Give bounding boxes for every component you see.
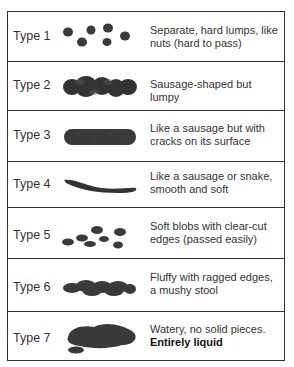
type-5-illustration-icon: [62, 224, 144, 250]
type-description: Soft blobs with clear-cut edges (passed …: [150, 220, 280, 246]
type-description: Like a sausage or snake, smooth and soft: [150, 170, 280, 196]
type-label: Type 4: [13, 177, 51, 191]
type-label: Type 2: [13, 78, 51, 92]
type-3-illustration-icon: [62, 127, 144, 147]
type-description-text: Watery, no solid pieces.: [150, 323, 266, 335]
type-4-illustration-icon: [62, 176, 144, 196]
type-label: Type 3: [13, 128, 51, 142]
table-row-type-5: Type 5 Soft blobs with clear-cut edges (…: [8, 208, 284, 259]
type-7-illustration-icon: [62, 319, 144, 355]
type-label: Type 5: [13, 228, 51, 242]
type-description: Fluffy with ragged edges, a mushy stool: [150, 271, 280, 297]
type-label: Type 1: [13, 29, 51, 43]
table-row-type-1: Type 1 Separate, hard lumps, like nuts (…: [8, 12, 284, 62]
table-row-type-4: Type 4 Like a sausage or snake, smooth a…: [8, 162, 284, 208]
table-row-type-2: Type 2 Sausage-shaped but lumpy: [8, 62, 284, 111]
type-description: Sausage-shaped but lumpy: [150, 78, 280, 104]
stool-type-table: Type 1 Separate, hard lumps, like nuts (…: [7, 11, 285, 361]
table-row-type-7: Type 7 Watery, no solid pieces. Entirely…: [8, 312, 284, 362]
type-2-illustration-icon: [62, 74, 144, 100]
type-description: Separate, hard lumps, like nuts (hard to…: [150, 24, 280, 50]
type-description: Like a sausage but with cracks on its su…: [150, 122, 280, 148]
type-1-illustration-icon: [62, 22, 144, 52]
type-description-emphasis: Entirely liquid: [150, 336, 223, 348]
table-row-type-3: Type 3 Like a sausage but with cracks on…: [8, 111, 284, 162]
table-row-type-6: Type 6 Fluffy with ragged edges, a mushy…: [8, 259, 284, 312]
type-description: Watery, no solid pieces. Entirely liquid: [150, 323, 280, 349]
type-label: Type 7: [13, 331, 51, 345]
type-label: Type 6: [13, 280, 51, 294]
type-6-illustration-icon: [62, 276, 144, 298]
